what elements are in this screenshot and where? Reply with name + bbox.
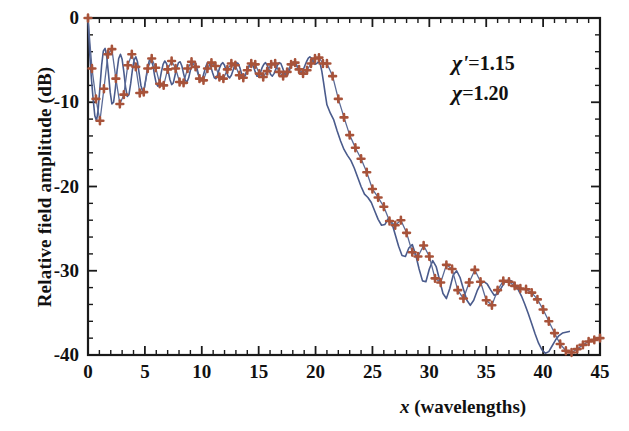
x-tick-label: 15 (249, 361, 268, 383)
x-tick-label: 40 (534, 361, 553, 383)
y-tick-label: -20 (54, 176, 79, 198)
x-tick-label: 25 (363, 361, 382, 383)
x-tick-label: 0 (83, 361, 93, 383)
y-tick-label: -40 (54, 344, 79, 366)
x-tick-label: 10 (192, 361, 211, 383)
x-tick-label: 5 (140, 361, 150, 383)
y-tick-label: -30 (54, 260, 79, 282)
x-tick-label: 35 (477, 361, 496, 383)
x-tick-label: 45 (591, 361, 610, 383)
y-tick-label: -10 (54, 91, 79, 113)
figure-container: Relative field amplitude (dB) x (wavelen… (0, 0, 629, 431)
y-tick-label: 0 (70, 7, 80, 29)
x-tick-label: 20 (306, 361, 325, 383)
x-tick-label: 30 (420, 361, 439, 383)
